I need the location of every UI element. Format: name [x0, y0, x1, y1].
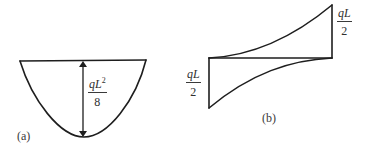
figure-canvas: [0, 0, 365, 152]
panel-b-left-label-numerator: qL: [186, 68, 201, 82]
panel-b-left-label-denominator: 2: [190, 83, 196, 98]
panel-b-lower-curve: [209, 58, 332, 108]
panel-b-right-label: qL 2: [337, 7, 352, 37]
panel-a-label-denominator: 8: [94, 93, 100, 108]
panel-b-right-label-numerator: qL: [337, 7, 352, 21]
panel-a-caption: (a): [17, 130, 30, 142]
panel-b-right-label-denominator: 2: [341, 22, 347, 37]
panel-a-diagram: [20, 60, 146, 137]
panel-b-left-label: qL 2: [186, 68, 201, 98]
panel-b-caption: (b): [262, 112, 276, 124]
panel-b-diagram: [209, 5, 332, 108]
panel-b-upper-curve: [209, 5, 332, 58]
panel-a-baseline: [20, 60, 146, 61]
panel-a-moment-label: qL2 8: [88, 77, 107, 108]
panel-a-label-numerator: qL2: [88, 77, 107, 92]
